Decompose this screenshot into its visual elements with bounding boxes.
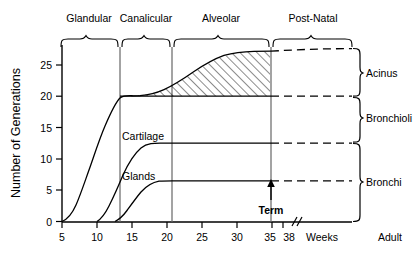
region-label-bronchioli: Bronchioli [366, 112, 412, 124]
x-tick-label-5: 5 [59, 231, 65, 243]
chart-canvas: Glandular Canalicular Alveolar Post-Nata… [0, 0, 414, 263]
phase-label-glandular: Glandular [66, 12, 112, 24]
x-tick-label-25: 25 [196, 231, 208, 243]
x-tick-label-30: 30 [231, 231, 243, 243]
y-tick-label-5: 5 [46, 184, 52, 196]
region-label-acinus: Acinus [366, 67, 398, 79]
region-label-bronchi: Bronchi [366, 176, 402, 188]
y-tick-label-20: 20 [40, 90, 52, 102]
y-tick-label-10: 10 [40, 153, 52, 165]
y-axis-title: Number of Generations [9, 68, 23, 198]
x-tick-label-35: 35 [264, 231, 276, 243]
phase-label-canalicular: Canalicular [120, 12, 173, 24]
y-tick-label-15: 15 [40, 122, 52, 134]
phase-label-postnatal: Post-Natal [288, 12, 337, 24]
y-tick-label-25: 25 [40, 59, 52, 71]
term-label: Term [259, 204, 284, 216]
x-tick-label-38: 38 [283, 231, 295, 243]
y-tick-label-0: 0 [46, 216, 52, 228]
curve-label-cartilage: Cartilage [122, 130, 164, 142]
curve-label-glands: Glands [122, 170, 155, 182]
x-tick-label-20: 20 [161, 231, 173, 243]
x-tick-label-10: 10 [91, 231, 103, 243]
lung-development-chart: Glandular Canalicular Alveolar Post-Nata… [0, 0, 414, 263]
x-axis-adult-label: Adult [378, 231, 402, 243]
x-axis-unit-label: Weeks [306, 231, 338, 243]
x-tick-label-15: 15 [126, 231, 138, 243]
phase-label-alveolar: Alveolar [202, 12, 240, 24]
